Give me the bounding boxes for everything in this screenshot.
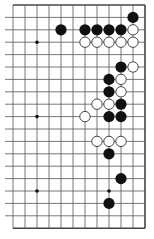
- intersection[interactable]: [8, 124, 18, 134]
- intersection[interactable]: [140, 124, 150, 134]
- intersection[interactable]: [140, 25, 150, 35]
- intersection[interactable]: [68, 186, 78, 196]
- intersection[interactable]: [20, 37, 30, 47]
- intersection[interactable]: [68, 198, 78, 208]
- intersection[interactable]: [56, 161, 66, 171]
- intersection[interactable]: [32, 50, 42, 60]
- intersection[interactable]: [68, 25, 78, 35]
- intersection[interactable]: [80, 12, 90, 22]
- intersection[interactable]: [44, 174, 54, 184]
- intersection[interactable]: [56, 136, 66, 146]
- intersection[interactable]: [56, 124, 66, 134]
- intersection[interactable]: [32, 174, 42, 184]
- intersection[interactable]: [140, 0, 150, 10]
- intersection[interactable]: [56, 211, 66, 221]
- intersection[interactable]: [8, 12, 18, 22]
- intersection[interactable]: [56, 37, 66, 47]
- intersection[interactable]: [92, 198, 102, 208]
- intersection[interactable]: [80, 198, 90, 208]
- intersection[interactable]: [8, 37, 18, 47]
- intersection[interactable]: [116, 50, 126, 60]
- intersection[interactable]: [104, 161, 114, 171]
- intersection[interactable]: [8, 149, 18, 159]
- intersection[interactable]: [80, 62, 90, 72]
- intersection[interactable]: [80, 161, 90, 171]
- intersection[interactable]: [68, 211, 78, 221]
- intersection[interactable]: [20, 198, 30, 208]
- intersection[interactable]: [80, 149, 90, 159]
- intersection[interactable]: [20, 25, 30, 35]
- intersection[interactable]: [140, 50, 150, 60]
- intersection[interactable]: [68, 74, 78, 84]
- intersection[interactable]: [140, 62, 150, 72]
- intersection[interactable]: [128, 0, 138, 10]
- intersection[interactable]: [68, 161, 78, 171]
- intersection[interactable]: [68, 62, 78, 72]
- intersection[interactable]: [116, 149, 126, 159]
- intersection[interactable]: [20, 223, 30, 233]
- intersection[interactable]: [140, 161, 150, 171]
- intersection[interactable]: [44, 112, 54, 122]
- intersection[interactable]: [80, 124, 90, 134]
- intersection[interactable]: [92, 161, 102, 171]
- intersection[interactable]: [44, 50, 54, 60]
- intersection[interactable]: [80, 211, 90, 221]
- intersection[interactable]: [68, 174, 78, 184]
- intersection[interactable]: [92, 87, 102, 97]
- intersection[interactable]: [44, 62, 54, 72]
- intersection[interactable]: [104, 62, 114, 72]
- intersection[interactable]: [8, 136, 18, 146]
- intersection[interactable]: [56, 12, 66, 22]
- intersection[interactable]: [8, 87, 18, 97]
- intersection[interactable]: [80, 136, 90, 146]
- intersection[interactable]: [68, 99, 78, 109]
- intersection[interactable]: [128, 124, 138, 134]
- intersection[interactable]: [68, 124, 78, 134]
- intersection[interactable]: [8, 50, 18, 60]
- intersection[interactable]: [8, 198, 18, 208]
- intersection[interactable]: [20, 124, 30, 134]
- intersection[interactable]: [104, 174, 114, 184]
- intersection[interactable]: [92, 223, 102, 233]
- intersection[interactable]: [56, 74, 66, 84]
- intersection[interactable]: [32, 12, 42, 22]
- intersection[interactable]: [104, 223, 114, 233]
- intersection[interactable]: [140, 112, 150, 122]
- intersection[interactable]: [44, 186, 54, 196]
- intersection[interactable]: [140, 87, 150, 97]
- intersection[interactable]: [32, 112, 42, 122]
- intersection[interactable]: [56, 112, 66, 122]
- intersection[interactable]: [80, 50, 90, 60]
- intersection[interactable]: [128, 223, 138, 233]
- intersection[interactable]: [56, 99, 66, 109]
- intersection[interactable]: [20, 161, 30, 171]
- intersection[interactable]: [68, 112, 78, 122]
- intersection[interactable]: [128, 174, 138, 184]
- intersection[interactable]: [92, 149, 102, 159]
- intersection[interactable]: [44, 99, 54, 109]
- intersection[interactable]: [56, 149, 66, 159]
- intersection[interactable]: [56, 186, 66, 196]
- intersection[interactable]: [56, 0, 66, 10]
- intersection[interactable]: [8, 161, 18, 171]
- intersection[interactable]: [104, 186, 114, 196]
- intersection[interactable]: [116, 161, 126, 171]
- intersection[interactable]: [128, 99, 138, 109]
- intersection[interactable]: [68, 0, 78, 10]
- intersection[interactable]: [140, 198, 150, 208]
- intersection[interactable]: [92, 0, 102, 10]
- intersection[interactable]: [32, 62, 42, 72]
- intersection[interactable]: [92, 124, 102, 134]
- intersection[interactable]: [44, 198, 54, 208]
- intersection[interactable]: [44, 149, 54, 159]
- intersection[interactable]: [20, 136, 30, 146]
- intersection[interactable]: [92, 211, 102, 221]
- intersection[interactable]: [128, 198, 138, 208]
- intersection[interactable]: [8, 74, 18, 84]
- intersection[interactable]: [44, 74, 54, 84]
- intersection[interactable]: [8, 174, 18, 184]
- intersection[interactable]: [44, 12, 54, 22]
- intersection[interactable]: [20, 186, 30, 196]
- intersection[interactable]: [80, 174, 90, 184]
- intersection[interactable]: [20, 62, 30, 72]
